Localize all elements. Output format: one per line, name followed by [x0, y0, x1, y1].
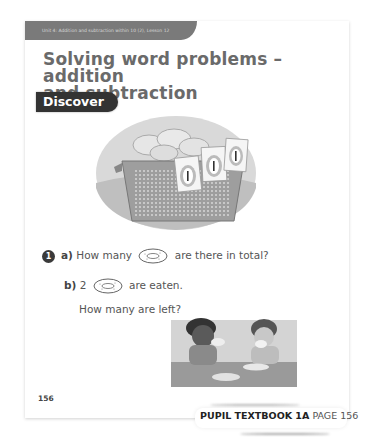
footer-page: PAGE 156 [312, 410, 358, 421]
discover-badge: Discover [36, 92, 118, 112]
footer-shadow-bottom [240, 433, 330, 435]
page-number: 156 [38, 394, 54, 403]
part-b-label: b) [64, 279, 76, 291]
question-b-line2: How many are left? [79, 303, 181, 315]
part-a-label: a) [61, 249, 73, 261]
part-b-text-after: are eaten. [129, 279, 183, 291]
part-a-text-after: are there in total? [175, 249, 269, 261]
children-eating-illustration [171, 312, 297, 387]
doughnut-icon [93, 278, 123, 294]
basket-illustration [94, 113, 259, 231]
unit-header-bar: Unit 4: Addition and subtraction within … [25, 21, 197, 40]
book-title: PUPIL TEXTBOOK 1A [200, 410, 309, 421]
title-line-1: Solving word problems – addition [43, 51, 343, 85]
question-b: b) 2 are eaten. [64, 278, 183, 294]
question-number: 1 [42, 250, 55, 263]
textbook-page: Unit 4: Addition and subtraction within … [25, 21, 349, 418]
footer-caption: PUPIL TEXTBOOK 1A PAGE 156 [200, 410, 358, 421]
part-b-text-before: 2 [80, 279, 87, 291]
doughnut-icon [138, 248, 168, 264]
question-a: a) How many are there in total? [61, 248, 269, 264]
footer-shadow-top [210, 404, 300, 406]
unit-label: Unit 4: Addition and subtraction within … [42, 28, 169, 33]
part-a-text-before: How many [76, 249, 132, 261]
